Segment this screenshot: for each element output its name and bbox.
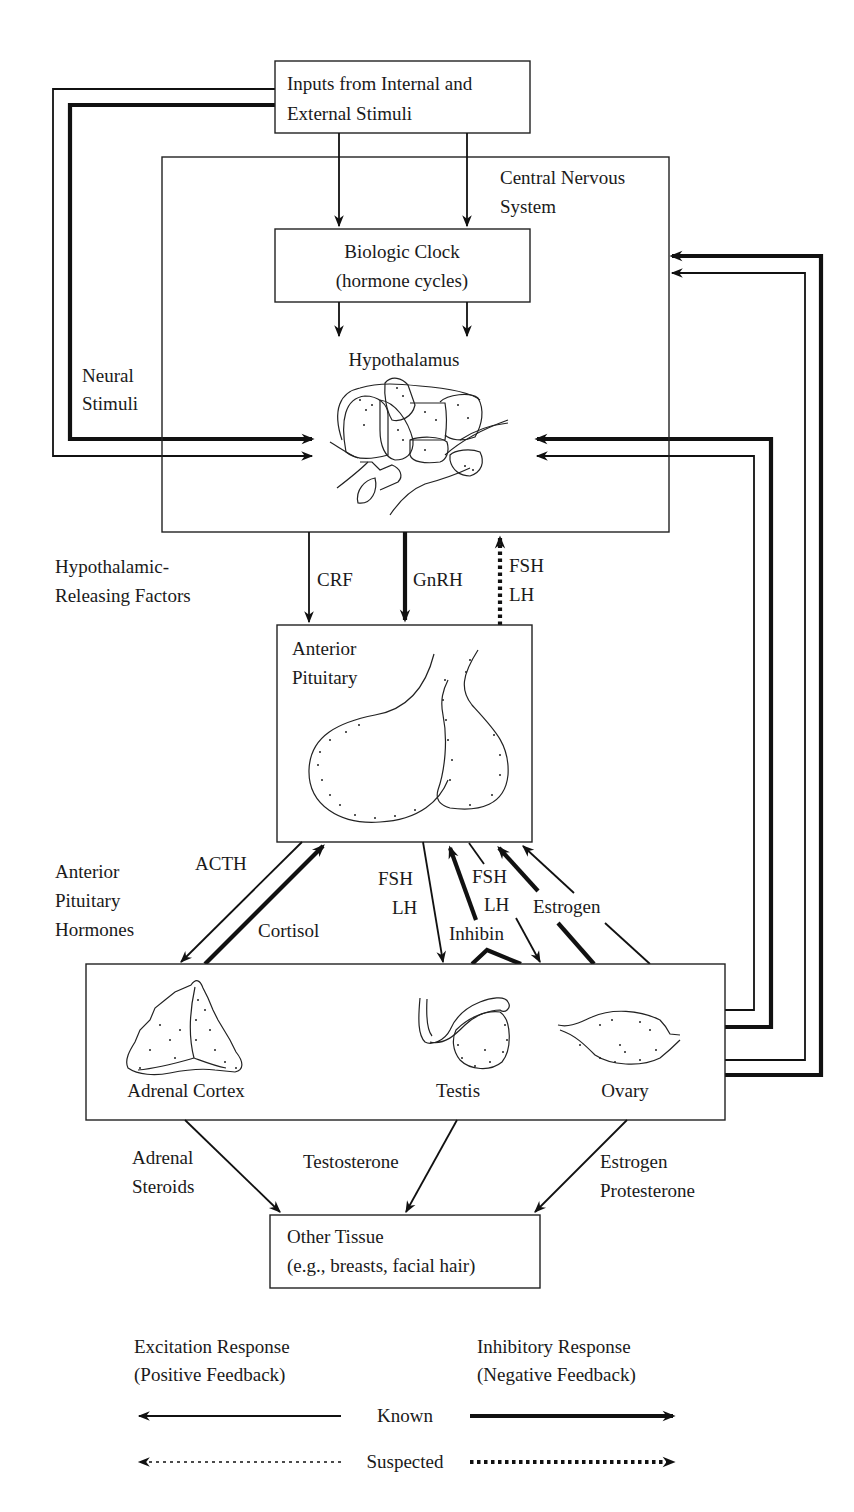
releasing-factors-label-line2: Releasing Factors: [55, 585, 191, 606]
gland-to-hypothalamus-excitation: [537, 456, 754, 1010]
cns-label-line1: Central Nervous: [500, 167, 625, 188]
estrogen-inhibitory-arrow-base: [558, 923, 594, 964]
testosterone-arrow: [406, 1120, 457, 1212]
anterior-pituitary-node: Anterior Pituitary: [277, 625, 532, 842]
legend-inhibitory-line1: Inhibitory Response: [477, 1336, 631, 1357]
inputs-label-line2: External Stimuli: [287, 103, 412, 124]
other-tissue-node: Other Tissue (e.g., breasts, facial hair…: [270, 1215, 540, 1288]
clock-label-line2: (hormone cycles): [336, 270, 468, 292]
other-tissue-label-line2: (e.g., breasts, facial hair): [287, 1255, 475, 1277]
inhibin-source-wedge: [472, 950, 521, 964]
acth-label: ACTH: [195, 853, 247, 874]
inhibin-label: Inhibin: [449, 923, 504, 944]
adrenal-steroids-label-line2: Steroids: [132, 1176, 194, 1197]
fsh-lh-up-label-line2: LH: [509, 584, 535, 605]
fsh-lh-ovary-label-line1: FSH: [472, 866, 507, 887]
legend-suspected-label: Suspected: [366, 1451, 444, 1472]
neural-stimuli-label-line2: Stimuli: [82, 393, 138, 414]
estrogen-excitatory-arrow-base: [605, 923, 650, 964]
releasing-factors-label-line1: Hypothalamic-: [55, 556, 169, 577]
fsh-lh-up-label-line1: FSH: [509, 555, 544, 576]
neural-stimuli-label-line1: Neural: [82, 365, 134, 386]
inputs-node: Inputs from Internal and External Stimul…: [275, 61, 530, 133]
glands-node: Adrenal Cortex Testis Ovary: [86, 964, 725, 1120]
pituitary-hormones-label-line2: Pituitary: [55, 890, 121, 911]
gnrh-label: GnRH: [413, 569, 463, 590]
clock-label-line1: Biologic Clock: [344, 241, 460, 262]
estrogen-progesterone-label-line2: Protesterone: [600, 1180, 695, 1201]
pituitary-hormones-label-line1: Anterior: [55, 861, 120, 882]
testosterone-label: Testosterone: [303, 1151, 399, 1172]
biologic-clock-node: Biologic Clock (hormone cycles): [275, 229, 530, 302]
cortisol-label: Cortisol: [258, 920, 319, 941]
pituitary-hormones-label-line3: Hormones: [55, 919, 134, 940]
cns-box: [162, 157, 669, 532]
testis-label: Testis: [436, 1080, 480, 1101]
legend-known-label: Known: [377, 1405, 433, 1426]
fsh-lh-to-ovary-arrow-top: [469, 843, 484, 864]
legend-excitation-line1: Excitation Response: [134, 1336, 290, 1357]
pituitary-label-line2: Pituitary: [292, 667, 358, 688]
hypothalamus-illustration: [330, 378, 508, 515]
hypothalamus-label: Hypothalamus: [349, 349, 460, 370]
crf-label: CRF: [317, 569, 353, 590]
fsh-lh-testis-label-line2: LH: [392, 897, 418, 918]
pituitary-label-line1: Anterior: [292, 638, 357, 659]
ovary-label: Ovary: [601, 1080, 649, 1101]
legend-excitation-line2: (Positive Feedback): [134, 1364, 285, 1386]
adrenal-steroids-arrow: [185, 1120, 280, 1212]
fsh-lh-testis-label-line1: FSH: [378, 868, 413, 889]
legend-inhibitory-line2: (Negative Feedback): [477, 1364, 636, 1386]
adrenal-steroids-label-line1: Adrenal: [132, 1147, 193, 1168]
gland-to-cns-inhibitory: [672, 256, 821, 1075]
fsh-lh-ovary-label-line2: LH: [484, 894, 510, 915]
adrenal-cortex-label: Adrenal Cortex: [127, 1080, 245, 1101]
inputs-label-line1: Inputs from Internal and: [287, 73, 473, 94]
fsh-lh-to-testis-arrow: [423, 842, 443, 962]
estrogen-progesterone-label-line1: Estrogen: [600, 1151, 668, 1172]
legend: Excitation Response (Positive Feedback) …: [134, 1336, 673, 1472]
cns-label-line2: System: [500, 196, 556, 217]
fsh-lh-to-ovary-arrow: [516, 918, 540, 962]
endocrine-feedback-diagram: Central Nervous System Inputs from Inter…: [0, 0, 854, 1512]
gland-to-cns-excitation: [672, 273, 805, 1060]
estrogen-feedback-label: Estrogen: [533, 896, 601, 917]
other-tissue-label-line1: Other Tissue: [287, 1226, 384, 1247]
